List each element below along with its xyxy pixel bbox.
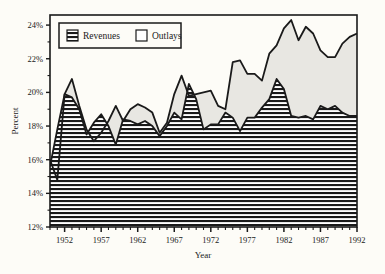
y-axis-tick-label: 22% <box>27 54 43 64</box>
y-axis-tick-label: 18% <box>27 121 43 131</box>
x-axis-tick-label: 1962 <box>129 235 146 245</box>
y-axis-tick-label: 12% <box>27 222 43 232</box>
x-axis-tick-label: 1957 <box>93 235 110 245</box>
x-axis-title: Year <box>195 250 212 260</box>
y-axis-tick-label: 20% <box>27 87 43 97</box>
x-axis-tick-label: 1952 <box>56 235 73 245</box>
budget-area-chart: 12%14%16%18%20%22%24% 195219571962196719… <box>0 0 385 274</box>
y-axis-tick-label: 14% <box>27 188 43 198</box>
legend-swatch-revenues <box>67 30 78 41</box>
y-axis-tick-label: 16% <box>27 155 43 165</box>
x-axis-tick-label: 1967 <box>166 235 183 245</box>
chart-canvas: 12%14%16%18%20%22%24% 195219571962196719… <box>0 0 385 274</box>
legend-label-revenues: Revenues <box>83 31 120 41</box>
y-axis-title: Percent <box>10 107 20 134</box>
legend-label-outlays: Outlays <box>152 31 182 41</box>
y-axis-tick-label: 24% <box>27 20 43 30</box>
x-axis-tick-label: 1972 <box>202 235 219 245</box>
chart-legend: Revenues Outlays <box>59 23 182 48</box>
x-axis-tick-label: 1987 <box>312 235 329 245</box>
x-axis-tick-label: 1982 <box>275 235 292 245</box>
x-axis-tick-label: 1992 <box>349 235 366 245</box>
x-axis-tick-label: 1977 <box>239 235 256 245</box>
legend-swatch-outlays <box>136 30 147 41</box>
